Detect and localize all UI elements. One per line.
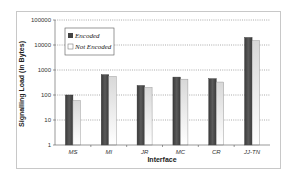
bar-encoded-mc xyxy=(173,77,181,145)
bar-encoded-ms xyxy=(65,95,73,145)
bar-not-encoded-jj-tn xyxy=(252,41,259,145)
bar-chart: 110100100010000100000 MSMIJRMCCRJJ-TN Si… xyxy=(0,0,304,183)
x-axis-title: Interface xyxy=(147,156,176,163)
bar-not-encoded-jr xyxy=(145,87,153,145)
y-tick-label: 1000 xyxy=(38,67,52,73)
x-tick-label: JR xyxy=(140,149,149,155)
legend-swatch-not-encoded xyxy=(68,44,73,49)
x-tick-label: MS xyxy=(68,149,77,155)
bar-not-encoded-ms xyxy=(73,101,81,145)
x-tick-label: MC xyxy=(176,149,186,155)
y-axis: 110100100010000100000 xyxy=(31,17,55,148)
x-axis: MSMIJRMCCRJJ-TN xyxy=(55,145,270,155)
legend-label-not-encoded: Not Encoded xyxy=(74,43,112,51)
y-tick-label: 100 xyxy=(41,92,52,98)
bar-not-encoded-mc xyxy=(180,79,188,145)
bar-encoded-jj-tn xyxy=(245,37,253,145)
bar-not-encoded-mi xyxy=(109,76,117,145)
bar-encoded-mi xyxy=(101,75,109,145)
y-tick-label: 1 xyxy=(48,142,52,148)
bar-encoded-jr xyxy=(137,85,145,145)
legend-swatch-encoded xyxy=(68,33,73,38)
bar-encoded-cr xyxy=(209,79,217,145)
y-tick-label: 10000 xyxy=(34,42,51,48)
legend: Encoded Not Encoded xyxy=(65,28,114,55)
x-tick-label: MI xyxy=(105,149,112,155)
y-axis-title: Signalling Load (in Bytes) xyxy=(18,41,26,127)
x-tick-label: CR xyxy=(212,149,221,155)
y-tick-label: 100000 xyxy=(31,17,52,23)
x-tick-label: JJ-TN xyxy=(243,149,261,155)
legend-label-encoded: Encoded xyxy=(74,32,100,40)
y-tick-label: 10 xyxy=(44,117,51,123)
bar-not-encoded-cr xyxy=(216,82,224,145)
